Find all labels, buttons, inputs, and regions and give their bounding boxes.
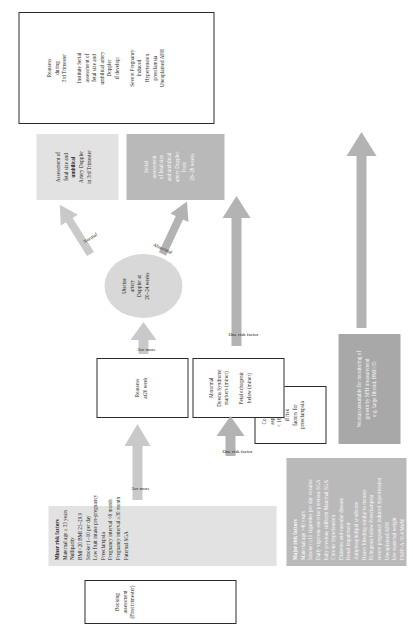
- arrow-label-one-risk-2: One risk factor: [228, 332, 258, 337]
- major-risk-item: severe pregnancy induced hypertension: [375, 464, 383, 560]
- arrow-label-three-or-more-2: 3or more: [137, 347, 155, 352]
- abnormal-markers-box: Abnormal Downs Syndrome markers (minor) …: [192, 358, 284, 418]
- assessment-line: Assessment of: [54, 138, 62, 196]
- minor-risk-item: Nulliparity: [68, 512, 76, 560]
- markers-line: Fetal echogenic: [237, 362, 245, 414]
- major-risk-item: Diabetes and vascular disease: [337, 464, 345, 560]
- major-risk-item: Chronic hypertension: [329, 464, 337, 560]
- markers-line: Abnormal: [207, 362, 215, 414]
- minor-risk-item: BMI<20 BMI 25–29.9: [76, 512, 84, 560]
- minor-risk-header: Minor risk factors: [53, 512, 61, 560]
- arrow-label-one-risk-1: One risk factor: [222, 449, 252, 454]
- major-risk-item: Heavy bleeding similar to menses: [360, 464, 368, 560]
- minor-risk-item: Preeclampsia: [99, 512, 107, 560]
- third-line: during: [53, 19, 61, 117]
- uterine-line: artery: [128, 258, 136, 314]
- third-line: fetal size and: [90, 19, 98, 117]
- minor-risk-item: Pregnancy interval <6 month: [106, 512, 114, 560]
- markers-line: below (minor): [245, 362, 253, 414]
- major-risk-factors-box: Major risk factors Maternal age >40 year…: [286, 458, 406, 566]
- serial-line: from: [180, 138, 188, 196]
- third-trimester-reassess-box: Reassess during 3rd Trimester Institute …: [18, 12, 214, 124]
- major-risk-item: PAPP-A <0.4 MoM: [398, 464, 406, 560]
- arrow-unsuitable-to-serial: [346, 132, 376, 328]
- uterine-line: 20–24 weeks: [143, 258, 151, 314]
- unsuitable-line: Woman unsuitable for monitoring of: [355, 340, 363, 438]
- major-risk-item: Smoker ≥11 cigarettes per day cocaine: [306, 464, 314, 560]
- third-line: Hypertension: [143, 19, 151, 117]
- third-line: Severe Pregnancy: [128, 19, 136, 117]
- minor-risk-item: Smoker 1–10 per day: [84, 512, 92, 560]
- assessment-line: fetal size and: [62, 138, 70, 196]
- third-spacer-2: [121, 19, 128, 117]
- third-line: Induced: [135, 19, 143, 117]
- major-risk-item: baby previous stillbirth Maternal SGA: [322, 464, 330, 560]
- third-line: Reassess: [45, 19, 53, 117]
- minor-risk-item: Low fruit intake pre-pregnancy: [91, 512, 99, 560]
- arrow-one-risk-factor-2: [222, 196, 250, 346]
- uterine-line: Doppler at: [135, 258, 143, 314]
- reassess20-line: at20 week: [141, 362, 149, 414]
- booking-line-1: Booking assessment: [113, 584, 128, 620]
- third-line: assessment of: [83, 19, 91, 117]
- serial-line: of fetal size: [157, 138, 165, 196]
- assessment-line: Artery Doppler: [77, 138, 85, 196]
- uterine-artery-doppler-oval: Uterine artery Doppler at 20–24 weeks: [104, 254, 182, 318]
- unsuitable-line: growth by SFH measurement: [363, 340, 371, 438]
- third-line: Doppler: [105, 19, 113, 117]
- arrow-label-three-or-more-1: 3or more: [131, 486, 149, 491]
- third-line: Institute Serial: [75, 19, 83, 117]
- markers-spacer: [230, 362, 237, 414]
- flowchart-canvas: Booking assessment (First trimester) Min…: [0, 0, 413, 632]
- major-risk-item: low maternal weight: [390, 464, 398, 560]
- aspirin-line: factors for: [291, 390, 299, 440]
- serial-line: and umbilical: [165, 138, 173, 196]
- major-risk-item: Echogenic below Preeclampsia: [367, 464, 375, 560]
- serial-line: artery Doppler: [173, 138, 181, 196]
- markers-line: markers (minor): [222, 362, 230, 414]
- booking-assessment-box: Booking assessment (First trimester): [84, 580, 236, 624]
- major-risk-item: Maternal age >40 years: [299, 464, 307, 560]
- booking-line-2: (First trimester): [128, 584, 136, 620]
- reassess20-line: Reassess: [133, 362, 141, 414]
- unsuitable-line: e.g. large fibroid, BMI>35: [370, 340, 378, 438]
- assessment-3rd-trimester-box: Assessment of fetal size and umbilical A…: [36, 134, 118, 200]
- major-risk-item: Daily vigorous exercise previous SGA: [314, 464, 322, 560]
- major-risk-header: Major risk factors: [291, 464, 299, 560]
- serial-line: assessment: [150, 138, 158, 196]
- major-risk-item: Unexplained APH: [383, 464, 391, 560]
- minor-risk-item: Pregnancy interval ≥30 month: [114, 512, 122, 560]
- third-line: 3rd Trimester: [60, 19, 68, 117]
- third-line: preeclamsia: [151, 19, 159, 117]
- minor-risk-item: Maternal age ≥ 35 years: [61, 512, 69, 560]
- arrow-normal: [51, 200, 99, 260]
- serial-line: Serial: [142, 138, 150, 196]
- assessment-line-bold: umbilical: [69, 138, 77, 196]
- serial-assessment-2628-box: Serial assessment of fetal size and umbi…: [126, 134, 224, 200]
- unsuitable-for-sfh-box: Woman unsuitable for monitoring of growt…: [338, 334, 400, 444]
- third-line: if develop:: [113, 19, 121, 117]
- major-risk-item: Antiphospholipid syndrome: [352, 464, 360, 560]
- markers-line: Downs Syndrome: [215, 362, 223, 414]
- third-line: umbilical artery: [98, 19, 106, 117]
- aspirin-line: preeclampsia: [298, 390, 306, 440]
- minor-risk-item: Paternal SGA: [122, 512, 130, 560]
- major-risk-item: Renal impairment: [344, 464, 352, 560]
- serial-line: 26–28 weeks: [188, 138, 196, 196]
- minor-risk-factors-box: Minor risk factors Maternal age ≥ 35 yea…: [48, 506, 276, 566]
- third-spacer: [68, 19, 75, 117]
- assessment-line: in 3rd Trimester: [85, 138, 93, 196]
- reassess-20-week-box: Reassess at20 week: [96, 358, 188, 418]
- third-line: Unexplained APH: [158, 19, 166, 117]
- uterine-line: Uterine: [120, 258, 128, 314]
